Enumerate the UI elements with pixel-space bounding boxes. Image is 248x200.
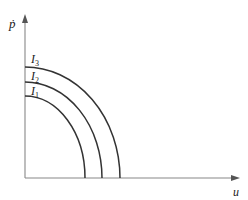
y-axis-label: ṗ: [8, 16, 16, 31]
x-axis-label: u: [233, 185, 239, 199]
x-axis-arrow-icon: [231, 175, 240, 181]
y-axis-arrow-icon: [22, 14, 28, 23]
diagram-canvas: ṗ u I1 I2 I3: [0, 0, 248, 200]
curve-label-i2: I2: [30, 69, 39, 85]
curve-label-i1: I1: [30, 84, 39, 100]
isoquant-curve-i1: [25, 96, 85, 178]
curve-label-i3: I3: [30, 52, 39, 68]
